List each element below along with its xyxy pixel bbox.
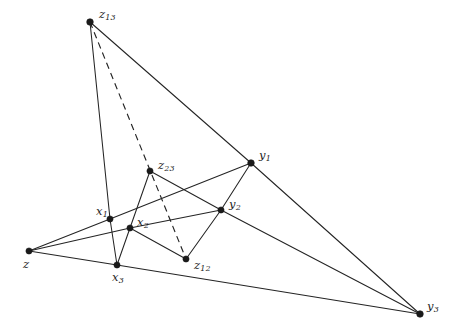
vertex-label-subscript-x3: 3 <box>119 276 124 285</box>
edge-z12-y2 <box>186 210 221 259</box>
vertex-label-base-y3: y <box>427 299 434 313</box>
vertex-label-subscript-y3: 3 <box>434 305 439 314</box>
vertex-dots-group <box>26 19 423 318</box>
solid-edges-group <box>29 22 420 314</box>
vertex-label-base-x1: x <box>96 204 103 218</box>
vertex-label-subscript-z23: 23 <box>164 164 174 173</box>
vertex-label-z23: z23 <box>158 160 175 172</box>
vertex-label-z: z <box>23 259 29 271</box>
vertex-dot-z12 <box>183 256 189 262</box>
vertex-label-base-y2: y <box>229 197 236 211</box>
edge-z13-x1 <box>90 22 110 219</box>
vertex-dot-z <box>26 248 32 254</box>
vertex-label-x3: x3 <box>112 272 124 284</box>
vertex-label-subscript-z13: 13 <box>105 13 115 22</box>
vertex-dot-y1 <box>248 160 255 167</box>
vertex-dot-x3 <box>114 262 120 268</box>
diagram-figure: zz13z23z12x1x2x3y1y2y3 <box>0 0 454 333</box>
edge-x3-y3 <box>117 265 420 314</box>
vertex-dot-z13 <box>87 19 94 26</box>
vertex-dot-z23 <box>147 168 153 174</box>
vertex-dot-x2 <box>127 225 133 231</box>
diagram-canvas <box>0 0 454 333</box>
vertex-label-base-x3: x <box>112 270 119 284</box>
vertex-label-subscript-z12: 12 <box>200 264 210 273</box>
edge-x2-z12 <box>130 228 186 259</box>
vertex-label-x2: x2 <box>137 217 149 229</box>
vertex-label-subscript-y1: 1 <box>266 154 271 163</box>
vertex-label-subscript-x2: 2 <box>144 221 149 230</box>
vertex-label-subscript-x1: 1 <box>103 210 108 219</box>
vertex-label-y3: y3 <box>427 301 439 313</box>
vertex-label-y1: y1 <box>259 150 271 162</box>
vertex-label-z13: z13 <box>99 9 116 21</box>
vertex-label-x1: x1 <box>96 206 108 218</box>
vertex-dot-y2 <box>218 207 224 213</box>
vertex-label-base-y1: y <box>259 148 266 162</box>
vertex-label-z12: z12 <box>194 260 211 272</box>
vertex-dot-y3 <box>417 311 424 318</box>
edge-z23-y2 <box>150 171 221 210</box>
vertex-label-base-x2: x <box>137 215 144 229</box>
vertex-label-base-z: z <box>23 257 29 271</box>
vertex-label-subscript-y2: 2 <box>236 203 241 212</box>
edge-z13-y1 <box>90 22 251 163</box>
vertex-label-y2: y2 <box>229 199 241 211</box>
edge-z-x3 <box>29 251 117 265</box>
edge-x1-x3 <box>110 219 117 265</box>
